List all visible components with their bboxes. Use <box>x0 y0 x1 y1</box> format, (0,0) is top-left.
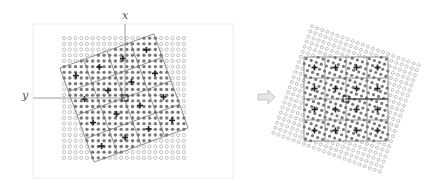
left-panel <box>0 0 442 192</box>
arrow-right-icon <box>258 90 275 104</box>
x-axis-label: x <box>122 9 128 22</box>
figure: x y <box>0 0 442 192</box>
aligned-block-grid <box>304 57 388 141</box>
y-axis-label: y <box>22 89 28 102</box>
